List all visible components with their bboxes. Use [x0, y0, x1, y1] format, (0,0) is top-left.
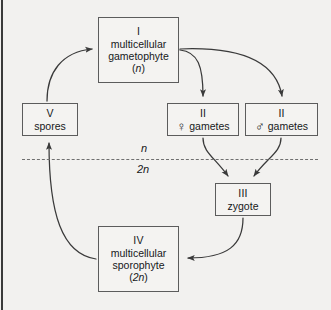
node-zygote-roman: III	[238, 187, 247, 199]
node-female-gametes[interactable]: II ♀ gametes	[167, 103, 239, 136]
node-female-gametes-row: ♀ gametes	[176, 119, 229, 132]
node-sporophyte-ploidy: (2n)	[129, 271, 148, 283]
node-spores-roman: V	[46, 107, 53, 119]
arrow-gametophyte-to-female	[180, 50, 203, 96]
node-zygote[interactable]: III zygote	[215, 183, 271, 216]
node-female-gametes-roman: II	[200, 107, 206, 119]
node-sporophyte-roman: IV	[133, 234, 143, 246]
node-zygote-label: zygote	[228, 200, 259, 212]
life-cycle-diagram: n 2n I multicellular gametophyte (n) V s…	[0, 0, 331, 310]
ploidy-value: 2n	[133, 271, 145, 283]
node-sporophyte-line1: multicellular	[111, 247, 166, 259]
paren-close: )	[144, 271, 148, 283]
male-symbol-icon: ♂	[255, 120, 265, 133]
node-male-gametes-label: gametes	[268, 120, 308, 132]
arrow-spores-to-gametophyte	[47, 49, 92, 101]
arrow-male-to-zygote	[254, 138, 281, 176]
node-spores-label: spores	[34, 120, 66, 132]
arrow-zygote-to-sporophyte	[188, 218, 243, 258]
paren-close: )	[141, 62, 145, 74]
node-female-gametes-label: gametes	[189, 120, 229, 132]
arrow-sporophyte-to-spores	[49, 143, 96, 259]
node-gametophyte[interactable]: I multicellular gametophyte (n)	[98, 17, 179, 83]
ploidy-label-diploid: 2n	[137, 163, 149, 175]
node-male-gametes[interactable]: II ♂ gametes	[245, 103, 318, 136]
node-gametophyte-roman: I	[137, 25, 140, 37]
node-sporophyte[interactable]: IV multicellular sporophyte (2n)	[98, 226, 179, 292]
node-sporophyte-line2: sporophyte	[113, 259, 165, 271]
ploidy-label-haploid: n	[141, 142, 147, 154]
node-spores[interactable]: V spores	[22, 103, 78, 136]
node-male-gametes-roman: II	[278, 107, 284, 119]
female-symbol-icon: ♀	[176, 120, 186, 133]
node-gametophyte-line2: gametophyte	[108, 50, 169, 62]
arrow-female-to-zygote	[203, 138, 228, 176]
arrow-gametophyte-to-male	[180, 49, 282, 96]
node-gametophyte-line1: multicellular	[111, 38, 166, 50]
ploidy-divider-line	[22, 159, 318, 160]
node-male-gametes-row: ♂ gametes	[255, 119, 308, 132]
node-gametophyte-ploidy: (n)	[132, 62, 145, 74]
